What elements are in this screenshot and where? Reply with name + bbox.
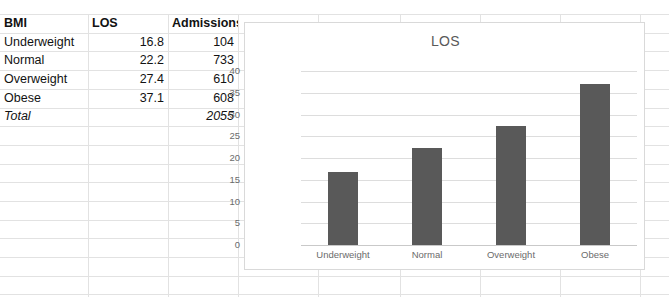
table-row[interactable]: Obese 37.1 608 [0,89,239,108]
chart-title: LOS [245,33,646,49]
chart-bar[interactable] [328,172,358,245]
column-header-admissions: Admissions [172,14,238,33]
cell-bmi[interactable]: Underweight [4,33,86,52]
y-axis-tick-label: 20 [210,153,240,163]
y-axis-tick-label: 35 [210,88,240,98]
chart-bar[interactable] [580,84,610,245]
chart-gridline [301,71,637,72]
column-header-bmi: BMI [4,14,86,33]
cell-total-los[interactable] [88,107,168,126]
bar-chart-object[interactable]: LOS 0510152025303540UnderweightNormalOve… [244,22,645,270]
cell-los[interactable]: 27.4 [88,70,168,89]
cell-los[interactable]: 37.1 [88,89,168,108]
x-axis-category-label: Overweight [469,249,553,260]
y-axis-tick-label: 10 [210,197,240,207]
table-total-row[interactable]: Total 2055 [0,107,239,126]
column-header-los: LOS [92,14,168,33]
table-row[interactable]: Normal 22.2 733 [0,51,239,70]
table-header-row: BMI LOS Admissions [0,14,239,33]
chart-bar[interactable] [412,148,442,245]
x-axis-category-label: Normal [385,249,469,260]
cell-total-label[interactable]: Total [4,107,86,126]
chart-bar[interactable] [496,126,526,245]
y-axis-tick-label: 0 [210,240,240,250]
grid-row-line [0,276,669,277]
spreadsheet-canvas: BMI LOS Admissions Underweight 16.8 104 … [0,0,669,297]
y-axis-tick-label: 40 [210,66,240,76]
grid-row-line [0,294,669,295]
cell-los[interactable]: 16.8 [88,33,168,52]
x-axis-category-label: Obese [553,249,637,260]
y-axis-tick-label: 5 [210,218,240,228]
data-table[interactable]: BMI LOS Admissions Underweight 16.8 104 … [0,14,239,126]
y-axis-tick-label: 15 [210,175,240,185]
y-axis-tick-label: 30 [210,110,240,120]
cell-admissions[interactable]: 104 [168,33,238,52]
table-row[interactable]: Underweight 16.8 104 [0,33,239,52]
cell-los[interactable]: 22.2 [88,51,168,70]
cell-bmi[interactable]: Overweight [4,70,86,89]
cell-bmi[interactable]: Normal [4,51,86,70]
table-row[interactable]: Overweight 27.4 610 [0,70,239,89]
chart-gridline [301,245,637,246]
y-axis-tick-label: 25 [210,131,240,141]
cell-bmi[interactable]: Obese [4,89,86,108]
chart-plot-area [301,71,637,245]
x-axis-category-label: Underweight [301,249,385,260]
